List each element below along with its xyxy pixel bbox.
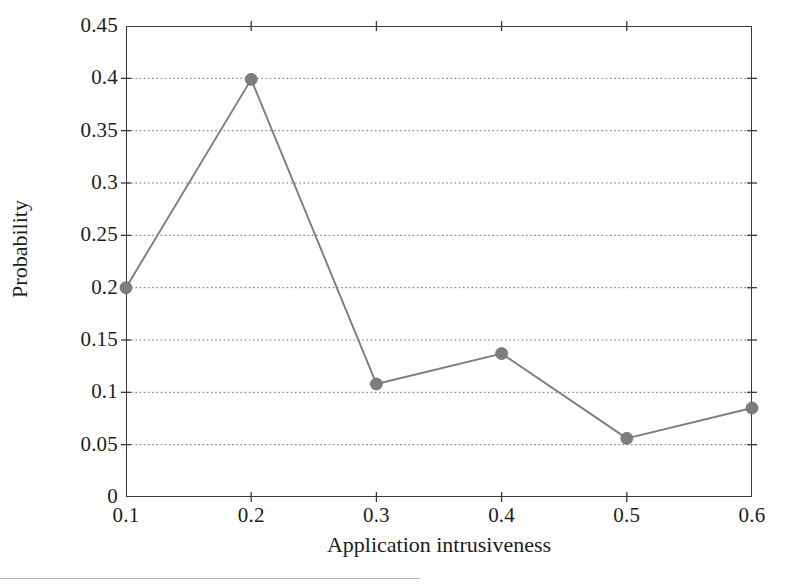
y-axis-tick-label: 0.4 [91, 67, 118, 88]
x-axis-tick-label: 0.2 [238, 505, 265, 526]
chart-plot-area [0, 0, 800, 587]
data-point-marker [621, 432, 633, 444]
y-axis-tick-label: 0.35 [80, 120, 118, 141]
y-axis-tick-label: 0.15 [80, 329, 118, 350]
data-point-marker [370, 378, 382, 390]
x-axis-tick-label: 0.6 [739, 505, 766, 526]
y-axis-ticks-group [121, 78, 757, 444]
y-axis-tick-label: 0.05 [80, 434, 118, 455]
x-axis-tick-label: 0.1 [113, 505, 140, 526]
x-axis-tick-label: 0.5 [613, 505, 640, 526]
series-line-probability [126, 79, 752, 438]
y-axis-tick-label: 0.2 [91, 277, 118, 298]
x-axis-ticks-group [251, 21, 627, 502]
footer-rule [0, 578, 420, 579]
y-axis-tick-label: 0.25 [80, 224, 118, 245]
series-markers-group [120, 73, 758, 444]
y-axis-tick-label: 0.45 [80, 15, 118, 36]
x-axis-tick-label: 0.3 [363, 505, 390, 526]
x-axis-tick-labels: 0.10.20.30.40.50.6 [0, 505, 800, 535]
data-point-marker [120, 282, 132, 294]
x-axis-tick-label: 0.4 [488, 505, 515, 526]
y-axis-title: Probability [7, 200, 33, 298]
data-point-marker [245, 73, 257, 85]
gridlines-group [127, 78, 751, 444]
y-axis-tick-label: 0.1 [91, 381, 118, 402]
data-point-marker [496, 348, 508, 360]
figure-canvas: 00.050.10.150.20.250.30.350.40.45 0.10.2… [0, 0, 800, 587]
data-point-marker [746, 402, 758, 414]
x-axis-title: Application intrusiveness [126, 532, 752, 558]
y-axis-tick-label: 0.3 [91, 172, 118, 193]
y-axis-title-wrapper: Probability [0, 0, 40, 497]
